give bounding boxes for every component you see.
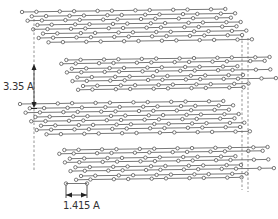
carbon-atom [187, 60, 190, 63]
carbon-atom [18, 102, 21, 105]
carbon-atom [139, 17, 142, 20]
carbon-atom [236, 65, 239, 68]
carbon-atom [73, 128, 76, 131]
carbon-atom [110, 9, 113, 12]
carbon-atom [237, 112, 240, 115]
carbon-atom [97, 132, 100, 135]
carbon-atom [187, 21, 190, 24]
carbon-atom [114, 110, 117, 113]
carbon-atom [254, 56, 257, 59]
carbon-atom [137, 39, 140, 42]
carbon-atom [68, 14, 71, 17]
carbon-atom [156, 105, 159, 108]
carbon-atom [161, 78, 164, 81]
carbon-atom [137, 109, 140, 112]
carbon-atom [223, 113, 226, 116]
carbon-atom [225, 163, 228, 166]
carbon-atom [144, 156, 147, 159]
carbon-atom [97, 62, 100, 65]
carbon-atom [150, 35, 153, 38]
carbon-atom [153, 147, 156, 150]
carbon-atom [36, 23, 39, 26]
carbon-atom [193, 69, 196, 72]
carbon-atom [124, 114, 127, 117]
carbon-atom [216, 56, 219, 59]
carbon-atom [267, 158, 270, 161]
carbon-atom [260, 77, 263, 80]
carbon-atom [154, 17, 157, 20]
carbon-atom [234, 130, 237, 133]
carbon-atom [250, 38, 253, 41]
carbon-atom [35, 10, 38, 13]
carbon-atom [46, 27, 49, 30]
carbon-atom [140, 57, 143, 60]
carbon-atom [226, 34, 229, 37]
carbon-atom [199, 113, 202, 116]
carbon-atom [108, 66, 111, 69]
carbon-atom [215, 16, 218, 19]
carbon-atom [197, 25, 200, 28]
carbon-atom [228, 86, 231, 89]
carbon-atom [150, 177, 153, 180]
carbon-atom [229, 158, 232, 161]
carbon-atom [120, 132, 123, 135]
carbon-atom [127, 35, 130, 38]
carbon-atom [169, 173, 172, 176]
carbon-atom [102, 58, 105, 61]
carbon-atom [179, 69, 182, 72]
carbon-atom [107, 27, 110, 30]
carbon-atom [81, 84, 84, 87]
carbon-atom [96, 84, 99, 87]
carbon-atom [148, 127, 151, 130]
carbon-atom [187, 164, 190, 167]
carbon-atom [231, 104, 234, 107]
carbon-atom [105, 119, 108, 122]
carbon-atom [182, 155, 185, 158]
carbon-atom [201, 21, 204, 24]
carbon-atom [110, 151, 113, 154]
carbon-atom [72, 152, 75, 155]
carbon-atom [79, 174, 82, 177]
carbon-atom [65, 71, 68, 74]
carbon-atom [78, 161, 81, 164]
carbon-atom [195, 117, 198, 120]
carbon-atom [90, 75, 93, 78]
carbon-atom [70, 102, 73, 105]
carbon-atom [236, 38, 239, 41]
carbon-atom [80, 106, 83, 109]
carbon-atom [207, 30, 210, 33]
carbon-atom [37, 36, 40, 39]
carbon-atom [175, 39, 178, 42]
carbon-atom [76, 76, 79, 79]
carbon-atom [135, 61, 138, 64]
carbon-atom [48, 115, 51, 118]
carbon-atom [44, 14, 47, 17]
carbon-atom [100, 110, 103, 113]
carbon-atom [272, 166, 275, 169]
carbon-atom [152, 109, 155, 112]
carbon-atom [179, 104, 182, 107]
carbon-atom [96, 9, 99, 12]
carbon-atom [245, 29, 248, 32]
carbon-atom [104, 106, 107, 109]
carbon-atom [60, 62, 63, 65]
carbon-atom [185, 113, 188, 116]
carbon-atom [149, 22, 152, 25]
carbon-atom [121, 26, 124, 29]
carbon-atom [207, 100, 210, 103]
carbon-atom [151, 75, 154, 78]
carbon-atom [85, 67, 88, 70]
carbon-atom [88, 23, 91, 26]
carbon-atom [125, 127, 128, 130]
carbon-atom [39, 124, 42, 127]
carbon-atom [143, 118, 146, 121]
carbon-atom [184, 65, 187, 68]
carbon-atom [155, 57, 158, 60]
carbon-atom [28, 107, 31, 110]
carbon-atom [186, 126, 189, 129]
carbon-atom [142, 105, 145, 108]
carbon-atom [72, 115, 75, 118]
carbon-atom [221, 25, 224, 28]
carbon-atom [167, 122, 170, 125]
carbon-atom [224, 126, 227, 129]
